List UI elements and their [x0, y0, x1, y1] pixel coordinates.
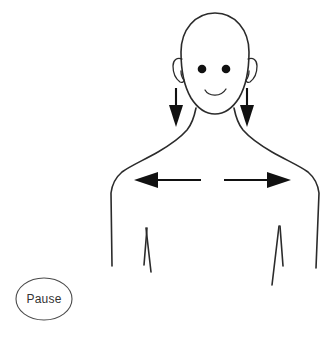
pause-button-label[interactable]: Pause	[16, 278, 72, 320]
chest-right-arrow-head	[267, 172, 291, 188]
left-armpit-crease-inner	[144, 228, 147, 265]
chest-right-arrow	[224, 172, 291, 188]
right-eye-dot	[222, 65, 231, 74]
right-shoulder-down-arrow	[240, 88, 254, 127]
chest-left-arrow	[134, 172, 201, 188]
right-shoulder-down-arrow-head	[240, 105, 254, 127]
mouth-smile-curve	[205, 89, 226, 95]
right-armpit-crease-outer	[272, 226, 279, 285]
left-shoulder-down-arrow	[169, 88, 183, 127]
head-outline	[181, 13, 249, 114]
diagram-canvas: Pause	[0, 0, 330, 337]
right-armpit-crease-inner	[280, 226, 283, 266]
left-shoulder-down-arrow-head	[169, 105, 183, 127]
left-neck-shoulder-arm-outline	[111, 108, 196, 266]
chest-left-arrow-head	[134, 172, 158, 188]
left-eye-dot	[198, 65, 207, 74]
